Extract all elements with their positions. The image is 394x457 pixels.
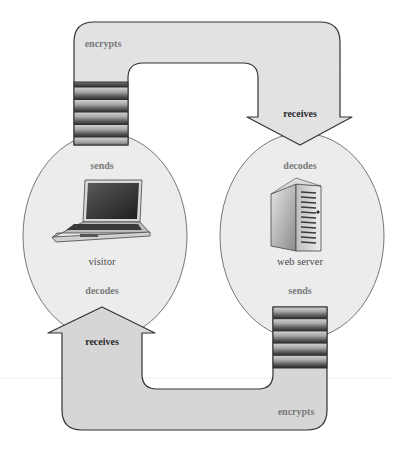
visitor-top-label: sends	[90, 160, 113, 171]
top-pipe-label: encrypts	[85, 38, 122, 49]
bottom-pipe-label: encrypts	[278, 406, 315, 417]
server-top-label: decodes	[283, 160, 316, 171]
visitor-label: visitor	[89, 256, 116, 267]
server-tower-icon	[271, 178, 321, 251]
top-arrow-label: receives	[283, 108, 317, 119]
top-encrypted-stripes	[74, 82, 128, 145]
server-bottom-label: sends	[288, 285, 311, 296]
server-label: web server	[277, 256, 323, 267]
bottom-encrypted-stripes	[273, 307, 327, 368]
diagram-canvas	[0, 0, 394, 457]
bottom-arrow-label: receives	[85, 336, 119, 347]
visitor-bottom-label: decodes	[85, 285, 118, 296]
encryption-cycle-diagram: encrypts receives sends visitor decodes …	[0, 0, 394, 457]
